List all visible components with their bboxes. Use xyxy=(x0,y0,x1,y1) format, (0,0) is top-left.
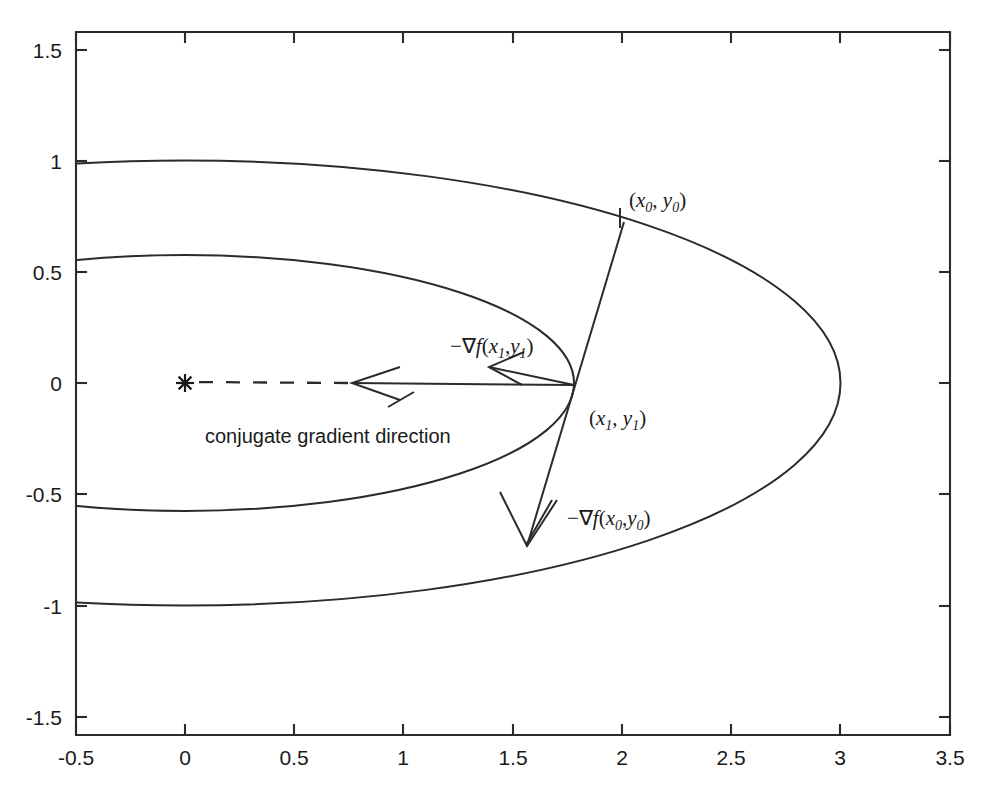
negative-gradient-x1y1-shaft xyxy=(489,367,574,385)
y-tick-label--1: -1 xyxy=(43,595,62,618)
y-tick-label--1.5: -1.5 xyxy=(26,706,62,729)
conjugate-gradient-arrow xyxy=(352,367,574,400)
x-tick-label-0.5: 0.5 xyxy=(279,746,308,769)
x-tick-label-2.5: 2.5 xyxy=(716,746,745,769)
x-tick-label-0: 0 xyxy=(179,746,191,769)
y-tick-label-0: 0 xyxy=(50,372,62,395)
x-tick-label--0.5: -0.5 xyxy=(58,746,94,769)
conjugate-direction-label: conjugate gradient direction xyxy=(205,425,451,447)
y-tick-label-1.5: 1.5 xyxy=(33,39,62,62)
grad-x1-y1-label: −∇f(x1,y1) xyxy=(450,334,534,361)
point-x1-y1-label: (x1, y1) xyxy=(589,406,646,433)
x-tick-label-2: 2 xyxy=(616,746,628,769)
figure-root: 1.5 1 0.5 0 -0.5 -1 -1.5 -0.5 0 0.5 1 1.… xyxy=(0,0,989,796)
y-tick-label--0.5: -0.5 xyxy=(26,483,62,506)
conjugate-gradient-shaft xyxy=(352,383,574,385)
y-tick-label-1: 1 xyxy=(50,150,62,173)
y-tick-label-0.5: 0.5 xyxy=(33,261,62,284)
annotations: (x0, y0) (x1, y1) −∇f(x1,y1) −∇f(x0,y0) … xyxy=(205,188,686,533)
conjugate-label-leader xyxy=(388,392,414,407)
x-tick-label-3: 3 xyxy=(834,746,846,769)
y-tick-labels: 1.5 1 0.5 0 -0.5 -1 -1.5 xyxy=(26,39,62,729)
minimum-marker-asterisk xyxy=(176,374,194,392)
x-tick-labels: -0.5 0 0.5 1 1.5 2 2.5 3 3.5 xyxy=(58,746,965,769)
grad-x0-y0-label: −∇f(x0,y0) xyxy=(567,506,651,533)
contour-plot-figure: 1.5 1 0.5 0 -0.5 -1 -1.5 -0.5 0 0.5 1 1.… xyxy=(0,0,989,796)
point-x0-y0-label: (x0, y0) xyxy=(629,188,686,215)
x-tick-label-1.5: 1.5 xyxy=(498,746,527,769)
dashed-path-to-minimum xyxy=(192,382,348,383)
x-tick-label-3.5: 3.5 xyxy=(935,746,964,769)
x-tick-label-1: 1 xyxy=(397,746,409,769)
